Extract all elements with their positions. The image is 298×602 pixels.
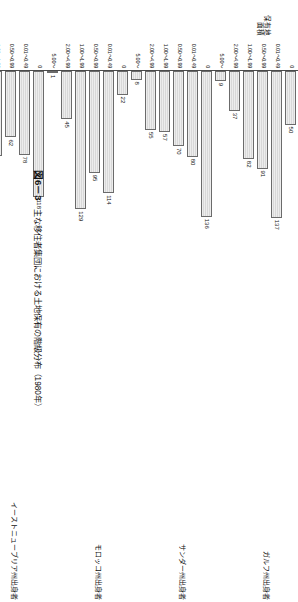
bar-value-label: 78 (22, 157, 28, 164)
bar-track: 136 (200, 70, 214, 602)
bar-row: 0136 (200, 36, 214, 602)
bar (244, 71, 255, 159)
bar-value-label: 1 (50, 75, 56, 78)
y-axis-tick-label: 1.00～1.99 (162, 36, 167, 70)
y-axis-tick-label: 5.00～ (50, 36, 55, 70)
bar-value-label: 9 (218, 83, 224, 86)
bar-row: 0.01～0.4978 (18, 36, 32, 602)
y-axis-tick-label: 0.01～0.49 (274, 36, 279, 70)
bar-row: 2.00～4.9937 (228, 36, 242, 602)
bar-track: 78 (18, 70, 32, 602)
bar-track: 9 (214, 70, 228, 602)
bar-track: 8 (130, 70, 144, 602)
y-axis-tick-label: 0 (288, 36, 293, 70)
y-axis-tick-label: 1.00～1.99 (246, 36, 251, 70)
bar-track: 91 (256, 70, 270, 602)
y-axis-tick-label: 0.50～0.99 (176, 36, 181, 70)
figure-page: 保有地 面積 0500.01～0.491370.50～0.99911.00～1.… (0, 0, 298, 602)
bar-value-label: 136 (204, 219, 210, 229)
series-label: イーストニューブリア州出身者 (10, 502, 20, 600)
bar-track: 50 (284, 70, 298, 602)
bar (216, 71, 227, 81)
bar (146, 71, 157, 130)
bar (118, 71, 129, 95)
y-axis-tick-label: 0 (204, 36, 209, 70)
y-axis-tick-label: 2.00～4.99 (232, 36, 237, 70)
bar-value-label: 55 (148, 132, 154, 139)
bar-value-label: 114 (106, 195, 112, 205)
bar-row: 1.00～1.9979 (0, 36, 4, 602)
bar-value-label: 22 (120, 97, 126, 104)
bar-track: 45 (60, 70, 74, 602)
bar-value-label: 137 (274, 220, 280, 230)
bar-value-label: 95 (92, 175, 98, 182)
bar-row: 5.00～1 (46, 36, 60, 602)
bar-track: 80 (186, 70, 200, 602)
bar-row: 5.00～8 (130, 36, 144, 602)
y-axis-tick-label: 1.00～1.99 (78, 36, 83, 70)
bar (174, 71, 185, 146)
bar (20, 71, 31, 155)
bar-row: 2.00～4.9955 (144, 36, 158, 602)
bar-track: 55 (144, 70, 158, 602)
chart-plot-area: 保有地 面積 0500.01～0.491370.50～0.99911.00～1.… (48, 0, 298, 602)
bar (202, 71, 213, 217)
bar-track: 95 (88, 70, 102, 602)
y-axis-tick-label: 0.50～0.99 (8, 36, 13, 70)
bar-row: 0.50～0.9970 (172, 36, 186, 602)
bar-value-label: 129 (78, 211, 84, 221)
bar-track: 1 (46, 70, 60, 602)
bar (258, 71, 269, 169)
bar (0, 71, 3, 156)
bar-group-list: 0500.01～0.491370.50～0.99911.00～1.99822.0… (48, 36, 298, 602)
bar-group: 01360.01～0.49800.50～0.99701.00～1.99572.0… (130, 36, 214, 602)
bar (132, 71, 143, 80)
bar-row: 5.00～9 (214, 36, 228, 602)
bar-row: 1.00～1.99129 (74, 36, 88, 602)
bar-track: 79 (0, 70, 4, 602)
bar-track: 22 (116, 70, 130, 602)
bar (286, 71, 297, 125)
bar-track: 129 (74, 70, 88, 602)
bar-group: 0500.01～0.491370.50～0.99911.00～1.99822.0… (214, 36, 298, 602)
bar (188, 71, 199, 157)
bar-row: 1.00～1.9982 (242, 36, 256, 602)
bar-value-label: 62 (8, 139, 14, 146)
bar-row: 022 (116, 36, 130, 602)
bar-row: 1.00～1.9957 (158, 36, 172, 602)
bar (76, 71, 87, 209)
bar-track: 37 (228, 70, 242, 602)
bar-row: 0.01～0.4980 (186, 36, 200, 602)
bar (272, 71, 283, 218)
bar-value-label: 80 (190, 159, 196, 166)
bar-track: 70 (172, 70, 186, 602)
figure-caption: 図6－3 主な移住者集団における土地保有の階級分布（1980年） (32, 170, 46, 411)
bar-track: 57 (158, 70, 172, 602)
y-axis-tick-label: 5.00～ (218, 36, 223, 70)
bar (90, 71, 101, 173)
bar-value-label: 37 (232, 113, 238, 120)
bar-track: 114 (102, 70, 116, 602)
y-axis-tick-label: 0.01～0.49 (22, 36, 27, 70)
bar-group: 0220.01～0.491140.50～0.99951.00～1.991292.… (46, 36, 130, 602)
bar (160, 71, 171, 132)
bar (104, 71, 115, 193)
bar-row: 0.01～0.49114 (102, 36, 116, 602)
bar-row: 0.50～0.9995 (88, 36, 102, 602)
y-axis-title: 保有地 面積 (256, 6, 270, 36)
bar-track: 137 (270, 70, 284, 602)
figure-number: 図6－3 (32, 170, 46, 201)
y-axis-tick-label: 0 (36, 36, 41, 70)
series-label: モロッコ州出身者 (94, 544, 104, 600)
y-axis-tick-label: 2.00～4.99 (64, 36, 69, 70)
y-axis-tick-label: 0.50～0.99 (92, 36, 97, 70)
bar-value-label: 45 (64, 121, 70, 128)
y-axis-tick-label: 0.01～0.49 (106, 36, 111, 70)
bar-value-label: 70 (176, 148, 182, 155)
bar-track: 82 (242, 70, 256, 602)
y-axis-tick-label: 0.01～0.49 (190, 36, 195, 70)
bar-value-label: 82 (246, 161, 252, 168)
series-label: サンダー州出身者 (178, 544, 188, 600)
bar-value-label: 57 (162, 134, 168, 141)
figure-title: 主な移住者集団における土地保有の階級分布（1980年） (33, 209, 45, 411)
